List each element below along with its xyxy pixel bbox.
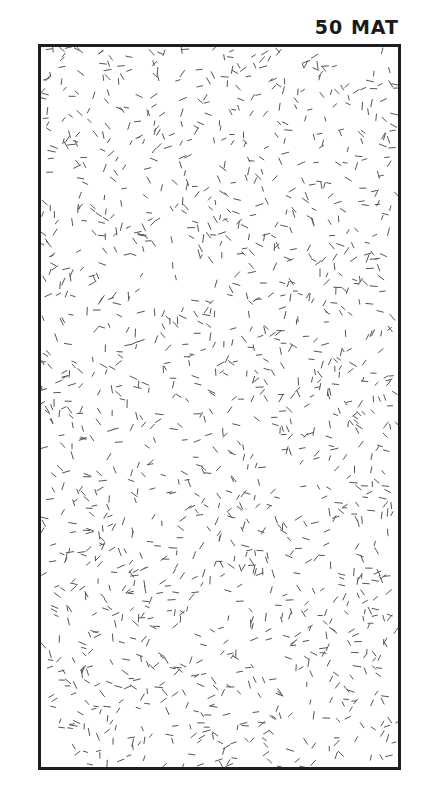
swatch-label: 50 MAT: [315, 18, 399, 37]
dash-texture-pattern: [41, 47, 398, 767]
texture-swatch: [38, 44, 401, 770]
swatch-page: 50 MAT: [0, 0, 424, 809]
